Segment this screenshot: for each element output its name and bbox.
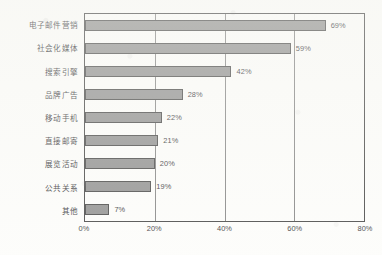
plot-area: 69% 59% 42% 28% 22% 21% xyxy=(84,13,365,222)
bar-value-label: 69% xyxy=(331,21,346,30)
bars-layer: 69% 59% 42% 28% 22% 21% xyxy=(85,14,364,221)
bar-row: 7% xyxy=(85,198,364,221)
category-label: 直接邮寄 xyxy=(0,129,84,152)
bar-row: 19% xyxy=(85,175,364,198)
bar-value-label: 20% xyxy=(160,159,175,168)
category-label: 其他 xyxy=(0,199,84,222)
bar xyxy=(85,66,231,77)
bar-value-label: 28% xyxy=(188,90,203,99)
bar-row: 59% xyxy=(85,37,364,60)
bar xyxy=(85,112,162,123)
x-tick-label: 20% xyxy=(147,224,162,233)
bar xyxy=(85,181,151,192)
x-tick-label: 40% xyxy=(217,224,232,233)
bar-row: 42% xyxy=(85,60,364,83)
bar-row: 69% xyxy=(85,14,364,37)
x-tick-label: 0% xyxy=(79,224,90,233)
bar xyxy=(85,158,155,169)
category-label: 电子邮件营销 xyxy=(0,13,84,36)
bar-value-label: 21% xyxy=(163,136,178,145)
bar-chart: 电子邮件营销 社会化媒体 搜索引擎 品牌广告 移动手机 直接邮寄 展览活动 公共… xyxy=(0,0,382,255)
bar-row: 28% xyxy=(85,83,364,106)
bar-value-label: 7% xyxy=(114,205,125,214)
x-tick-label: 80% xyxy=(357,224,372,233)
category-axis: 电子邮件营销 社会化媒体 搜索引擎 品牌广告 移动手机 直接邮寄 展览活动 公共… xyxy=(0,13,84,222)
bar xyxy=(85,135,158,146)
category-label: 搜索引擎 xyxy=(0,59,84,82)
bar-value-label: 22% xyxy=(167,113,182,122)
bar-row: 20% xyxy=(85,152,364,175)
category-label: 移动手机 xyxy=(0,106,84,129)
bar xyxy=(85,20,326,31)
bar-value-label: 19% xyxy=(156,182,171,191)
bar-value-label: 59% xyxy=(296,44,311,53)
bar-row: 22% xyxy=(85,106,364,129)
category-label: 展览活动 xyxy=(0,152,84,175)
x-tick-label: 60% xyxy=(287,224,302,233)
category-label: 公共关系 xyxy=(0,176,84,199)
bar xyxy=(85,204,109,215)
x-axis: 0% 20% 40% 60% 80% xyxy=(84,224,365,240)
bar-value-label: 42% xyxy=(236,67,251,76)
bar xyxy=(85,89,183,100)
category-label: 品牌广告 xyxy=(0,83,84,106)
bar xyxy=(85,43,291,54)
bar-row: 21% xyxy=(85,129,364,152)
category-label: 社会化媒体 xyxy=(0,36,84,59)
